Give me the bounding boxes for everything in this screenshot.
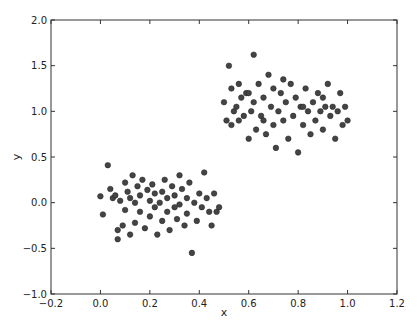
data-point — [337, 90, 343, 96]
data-point — [332, 136, 338, 142]
data-point — [261, 95, 267, 101]
data-point — [98, 194, 104, 200]
data-point — [137, 193, 143, 199]
data-point — [127, 232, 133, 238]
data-point — [115, 236, 121, 242]
data-point — [310, 99, 316, 105]
data-point — [241, 113, 247, 119]
data-points — [98, 52, 351, 256]
data-point — [108, 186, 114, 192]
data-point — [253, 127, 259, 133]
data-point — [115, 227, 121, 233]
data-point — [323, 104, 329, 110]
data-point — [271, 86, 277, 92]
data-point — [172, 193, 178, 199]
data-point — [164, 195, 170, 201]
data-point — [318, 109, 324, 115]
data-point — [328, 113, 334, 119]
data-point — [145, 187, 151, 193]
plot-frame — [51, 20, 397, 294]
x-tick-label: 0.6 — [241, 298, 257, 309]
data-point — [197, 191, 203, 197]
x-axis-label: x — [221, 306, 228, 319]
data-point — [236, 118, 242, 124]
y-tick-label: −1.0 — [23, 289, 47, 300]
data-point — [100, 212, 106, 218]
data-point — [266, 72, 272, 78]
data-point — [251, 52, 257, 58]
data-point — [127, 195, 133, 201]
data-point — [209, 223, 215, 229]
data-point — [281, 118, 287, 124]
scatter-chart: −0.20.00.20.40.60.81.01.2 −1.0−0.50.00.5… — [0, 0, 417, 329]
data-point — [293, 95, 299, 101]
data-point — [147, 214, 153, 220]
data-point — [152, 191, 158, 197]
data-point — [142, 225, 148, 231]
data-point — [330, 104, 336, 110]
data-point — [132, 220, 138, 226]
y-tick-label: −0.5 — [23, 243, 47, 254]
data-point — [150, 182, 156, 188]
data-point — [286, 136, 292, 142]
data-point — [135, 183, 141, 189]
y-tick-label: 2.0 — [31, 15, 47, 26]
data-point — [224, 118, 230, 124]
data-point — [192, 200, 198, 206]
data-point — [320, 95, 326, 101]
x-tick-label: 0.2 — [142, 298, 158, 309]
data-point — [261, 118, 267, 124]
y-axis-ticks: −1.0−0.50.00.51.01.52.0 — [23, 15, 397, 300]
data-point — [182, 223, 188, 229]
data-point — [340, 122, 346, 128]
x-tick-label: 1.2 — [389, 298, 405, 309]
data-point — [201, 170, 207, 176]
data-point — [221, 99, 227, 105]
data-point — [155, 232, 161, 238]
data-point — [204, 195, 210, 201]
data-point — [206, 209, 212, 215]
data-point — [130, 173, 136, 179]
data-point — [117, 198, 123, 204]
data-point — [283, 99, 289, 105]
data-point — [125, 189, 131, 195]
data-point — [288, 81, 294, 87]
data-point — [152, 204, 158, 210]
data-point — [187, 180, 193, 186]
data-point — [159, 218, 165, 224]
data-point — [256, 81, 262, 87]
data-point — [320, 127, 326, 133]
data-point — [147, 198, 153, 204]
x-tick-label: 1.0 — [340, 298, 356, 309]
data-point — [189, 250, 195, 256]
data-point — [169, 183, 175, 189]
data-point — [179, 186, 185, 192]
data-point — [226, 63, 232, 69]
y-tick-label: 1.5 — [31, 60, 47, 71]
data-point — [122, 207, 128, 213]
data-point — [122, 180, 128, 186]
data-point — [300, 104, 306, 110]
data-point — [164, 209, 170, 215]
data-point — [308, 131, 314, 137]
data-point — [273, 145, 279, 151]
data-point — [159, 189, 165, 195]
data-point — [211, 191, 217, 197]
data-point — [177, 202, 183, 208]
data-point — [295, 150, 301, 156]
x-tick-label: −0.2 — [39, 298, 63, 309]
x-axis-ticks: −0.20.00.20.40.60.81.01.2 — [39, 20, 405, 309]
data-point — [246, 90, 252, 96]
data-point — [315, 90, 321, 96]
data-point — [239, 95, 245, 101]
data-point — [248, 109, 254, 115]
data-point — [231, 109, 237, 115]
data-point — [140, 177, 146, 183]
y-axis-label: y — [10, 153, 23, 160]
data-point — [251, 99, 257, 105]
x-tick-label: 0.0 — [92, 298, 108, 309]
data-point — [325, 81, 331, 87]
data-point — [132, 200, 138, 206]
data-point — [290, 113, 296, 119]
data-point — [177, 173, 183, 179]
